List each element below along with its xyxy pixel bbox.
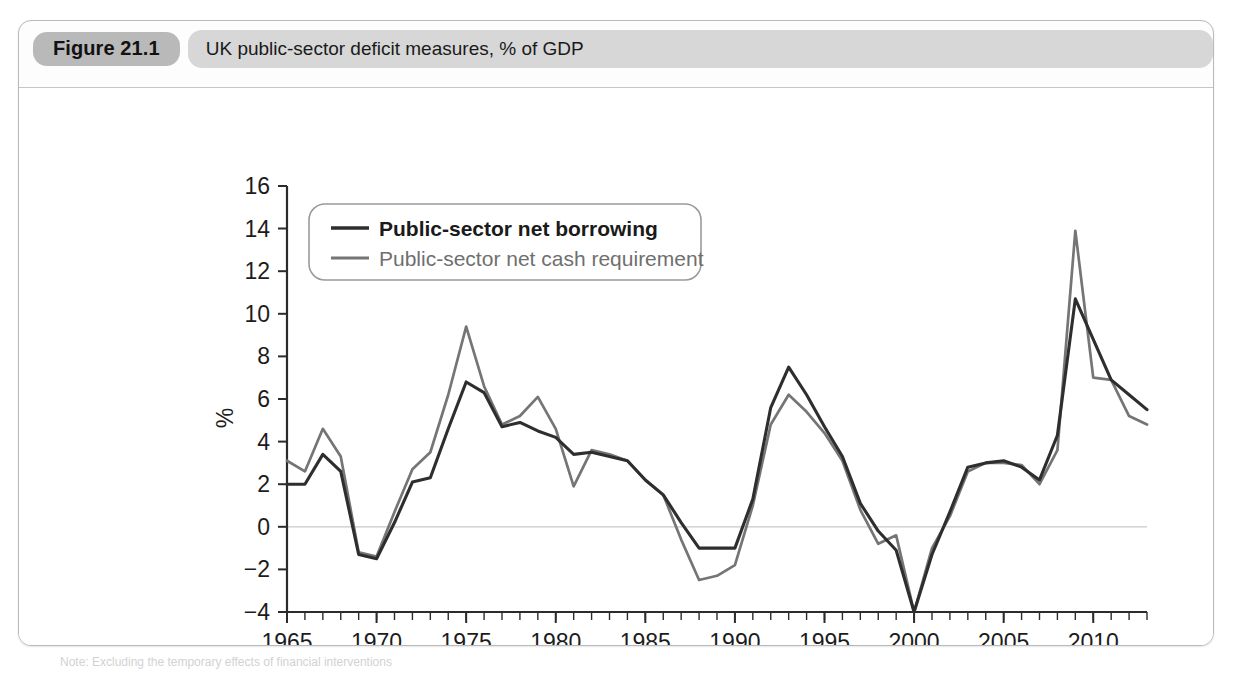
y-tick-label: 0 bbox=[257, 514, 270, 540]
x-tick-label: 1990 bbox=[709, 629, 760, 645]
x-axis-major-ticks bbox=[287, 612, 1093, 623]
x-axis-tick-labels: 1965197019751980198519901995200020052010 bbox=[261, 629, 1118, 645]
series-group bbox=[287, 231, 1147, 612]
x-tick-label: 2005 bbox=[978, 629, 1029, 645]
x-axis-minor-ticks bbox=[287, 612, 1147, 620]
y-tick-label: 16 bbox=[244, 173, 270, 199]
chart-legend: Public-sector net borrowing Public-secto… bbox=[309, 204, 704, 280]
y-tick-label: 10 bbox=[244, 301, 270, 327]
y-tick-label: 2 bbox=[257, 471, 270, 497]
y-tick-label: −4 bbox=[244, 599, 270, 625]
page-title: UK public-sector deficit measures, % of … bbox=[188, 30, 1213, 68]
chart-plot-area: −4−20246810121416 1965197019751980198519… bbox=[19, 88, 1213, 645]
series-line-public-sector-net-borrowing bbox=[287, 299, 1147, 612]
y-tick-label: 14 bbox=[244, 216, 270, 242]
x-tick-label: 1980 bbox=[530, 629, 581, 645]
figure-number-badge: Figure 21.1 bbox=[33, 32, 180, 66]
figure-card: Figure 21.1 UK public-sector deficit mea… bbox=[18, 20, 1214, 646]
x-tick-label: 2000 bbox=[888, 629, 939, 645]
x-tick-label: 1965 bbox=[261, 629, 312, 645]
y-tick-label: −2 bbox=[244, 556, 270, 582]
y-axis-ticks bbox=[278, 186, 287, 612]
x-tick-label: 1970 bbox=[351, 629, 402, 645]
legend-label-public-sector-net-borrowing: Public-sector net borrowing bbox=[379, 217, 658, 240]
x-tick-label: 2010 bbox=[1068, 629, 1119, 645]
y-tick-label: 4 bbox=[257, 429, 270, 455]
figure-note: Note: Excluding the temporary effects of… bbox=[60, 655, 760, 671]
figure-title-bar-container: Figure 21.1 UK public-sector deficit mea… bbox=[19, 21, 1213, 77]
x-tick-label: 1985 bbox=[620, 629, 671, 645]
y-axis-label: % bbox=[212, 408, 238, 428]
x-tick-label: 1995 bbox=[799, 629, 850, 645]
y-tick-label: 6 bbox=[257, 386, 270, 412]
series-line-public-sector-net-cash-requirement bbox=[287, 231, 1147, 612]
x-tick-label: 1975 bbox=[441, 629, 492, 645]
line-chart: −4−20246810121416 1965197019751980198519… bbox=[19, 88, 1213, 645]
y-tick-label: 8 bbox=[257, 343, 270, 369]
legend-label-public-sector-net-cash-requirement: Public-sector net cash requirement bbox=[379, 247, 704, 270]
y-axis-tick-labels: −4−20246810121416 bbox=[244, 173, 270, 625]
y-tick-label: 12 bbox=[244, 258, 270, 284]
